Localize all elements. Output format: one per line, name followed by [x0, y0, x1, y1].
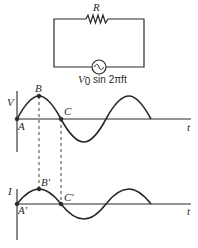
point-c-prime-label: C′: [64, 191, 74, 203]
current-t-label: t: [187, 205, 191, 217]
point-b-prime-label: B′: [41, 176, 51, 188]
circuit: [54, 15, 144, 74]
source-label: V0 sin 2πft: [78, 73, 127, 87]
point-b-dot: [37, 94, 41, 98]
point-c-dot: [59, 117, 63, 121]
voltage-axis-label: V: [7, 96, 15, 108]
resistor-icon: [86, 15, 109, 23]
resistor-label: R: [92, 1, 100, 13]
current-axis-label: I: [7, 185, 13, 197]
point-c-label: C: [64, 105, 72, 117]
resistor-ac-diagram: R V0 sin 2πft V t A B C I t A′ B′ C′: [0, 0, 198, 248]
voltage-t-label: t: [187, 121, 191, 133]
point-a-prime-label: A′: [17, 204, 28, 216]
point-b-label: B: [35, 82, 42, 94]
current-plot: [15, 187, 191, 240]
point-a-label: A: [17, 120, 25, 132]
point-c-prime-dot: [59, 202, 63, 206]
